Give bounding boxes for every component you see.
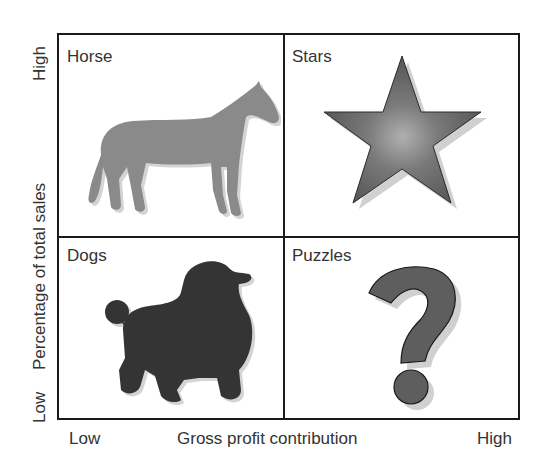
star-icon	[324, 50, 494, 220]
y-axis-title: Percentage of total sales	[30, 183, 50, 370]
matrix-grid: Horse Stars Dogs Puzzles	[57, 33, 520, 420]
question-mark-icon	[359, 263, 469, 413]
horse-icon	[71, 55, 281, 235]
quadrant-label-puzzles: Puzzles	[292, 246, 352, 266]
x-axis-low-label: Low	[69, 429, 100, 449]
vertical-divider	[283, 35, 285, 418]
y-axis: High Percentage of total sales Low	[28, 33, 54, 420]
x-axis-title: Gross profit contribution	[177, 429, 357, 449]
y-axis-high-label: High	[30, 46, 50, 81]
poodle-icon	[89, 250, 279, 415]
x-axis-high-label: High	[477, 429, 512, 449]
horizontal-divider	[59, 236, 518, 238]
y-axis-low-label: Low	[30, 392, 50, 423]
